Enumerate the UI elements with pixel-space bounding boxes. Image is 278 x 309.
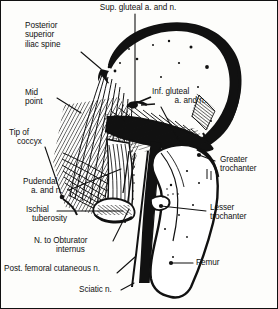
sup-gluteal-vessels-label: Sup. gluteal a. and n. bbox=[73, 3, 203, 12]
tip-of-coccyx-label: Tip of coccyx bbox=[9, 128, 42, 147]
dot-lesser-trochanter bbox=[159, 204, 163, 208]
coccyx-line2: coccyx bbox=[17, 137, 42, 146]
mid-point-label: Mid point bbox=[25, 88, 43, 107]
greater-trochanter-label: Greater trochanter bbox=[220, 155, 256, 174]
sup-gluteal-line1: Sup. gluteal a. and n. bbox=[100, 3, 176, 12]
psis-line1: Posterior bbox=[25, 21, 57, 30]
mid-point-line1: Mid bbox=[25, 88, 38, 97]
femur-line1: Femur bbox=[196, 258, 219, 267]
inf-gluteal-line2: a. and n. bbox=[152, 96, 206, 105]
sciatic-line1: Sciatic n. bbox=[79, 285, 112, 294]
dot-greater-trochanter bbox=[197, 153, 201, 157]
posterior-superior-iliac-spine-label: Posterior superior iliac spine bbox=[25, 21, 60, 49]
pudendal-line1: Pudendal bbox=[23, 177, 57, 186]
greater-troch-line1: Greater bbox=[220, 155, 247, 164]
inf-gluteal-line1: Inf. gluteal bbox=[152, 87, 189, 96]
coccyx-line1: Tip of bbox=[9, 128, 29, 137]
sciatic-nerve-label: Sciatic n. bbox=[79, 285, 112, 294]
obturator-line1: N. to Obturator bbox=[34, 236, 87, 245]
psis-line2: superior bbox=[25, 30, 60, 39]
psis-line3: iliac spine bbox=[25, 40, 60, 49]
inf-gluteal-vessels-label: Inf. gluteal a. and n. bbox=[152, 87, 206, 106]
dot-sup-gluteal bbox=[133, 103, 137, 107]
femur-shaft bbox=[150, 145, 218, 298]
dot-femur bbox=[169, 261, 173, 265]
leader-post-fem-cutaneous bbox=[117, 257, 135, 273]
lesser-troch-line1: Lesser bbox=[210, 203, 234, 212]
obturator-line2: internus bbox=[56, 245, 87, 254]
ischial-line1: Ischial bbox=[26, 205, 49, 214]
femur-label: Femur bbox=[196, 258, 219, 267]
posterior-femoral-cutaneous-nerve-label: Post. femoral cutaneous n. bbox=[4, 264, 100, 273]
ischial-line2: tuberosity bbox=[32, 214, 67, 223]
ischial-tuberosity-label: Ischial tuberosity bbox=[26, 205, 67, 224]
greater-troch-line2: trochanter bbox=[220, 164, 256, 173]
diagram-canvas: Sup. gluteal a. and n. Posterior superio… bbox=[0, 0, 278, 309]
superior-gluteal-vessels bbox=[127, 97, 155, 108]
pudendal-line2: a. and n. bbox=[31, 186, 62, 195]
leader-psis bbox=[81, 52, 101, 69]
nerve-to-obturator-internus-label: N. to Obturator internus bbox=[34, 236, 87, 255]
pudendal-vessels-label: Pudendal a. and n. bbox=[23, 177, 62, 196]
lesser-trochanter-label: Lesser trochanter bbox=[210, 203, 246, 222]
mid-point-line2: point bbox=[25, 97, 43, 106]
post-fem-cut-line1: Post. femoral cutaneous n. bbox=[4, 264, 100, 273]
lesser-troch-line2: trochanter bbox=[210, 212, 246, 221]
